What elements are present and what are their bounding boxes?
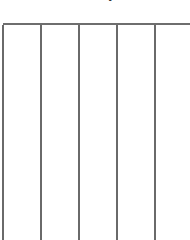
grid-column: [4, 27, 40, 240]
grid-column: [80, 27, 116, 240]
grid-column: [156, 27, 190, 240]
grid-column: [42, 27, 78, 240]
empty-column-grid: [3, 23, 190, 240]
clipped-heading: .: [108, 0, 112, 4]
grid-column: [118, 27, 154, 240]
